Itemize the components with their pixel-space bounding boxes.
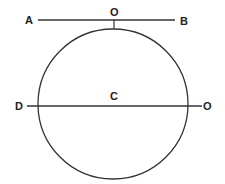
label-c-center: C bbox=[110, 90, 118, 102]
label-b: B bbox=[180, 15, 188, 27]
diagram-canvas: A B O C D O bbox=[0, 0, 225, 184]
geometry-figure: A B O C D O bbox=[0, 0, 225, 184]
label-o-right: O bbox=[203, 100, 212, 112]
label-o-top: O bbox=[110, 6, 119, 18]
label-d: D bbox=[15, 100, 23, 112]
circle bbox=[38, 29, 188, 179]
label-a: A bbox=[25, 14, 33, 26]
